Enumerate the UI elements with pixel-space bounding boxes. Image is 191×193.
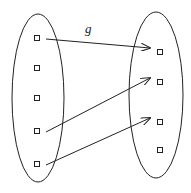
function-diagram: g	[0, 0, 191, 193]
domain-element	[35, 96, 40, 101]
function-label: g	[85, 21, 92, 36]
mapping-arrow	[46, 118, 150, 165]
domain-element	[35, 36, 40, 41]
codomain-element	[158, 50, 163, 55]
domain-element	[35, 162, 40, 167]
domain-set	[12, 14, 64, 182]
mapping-arrow	[46, 78, 150, 132]
codomain-element	[158, 148, 163, 153]
domain-element	[35, 129, 40, 134]
codomain-set	[129, 12, 183, 178]
codomain-element	[158, 120, 163, 125]
domain-element	[35, 66, 40, 71]
codomain-element	[158, 80, 163, 85]
